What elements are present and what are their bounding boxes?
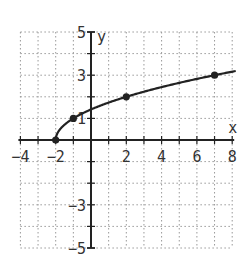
x-tick-label: 6 [192, 148, 201, 166]
function-plot: −4−22468 531−3−5 x y [0, 0, 246, 263]
y-axis-label: y [97, 28, 106, 46]
x-tick-label: 8 [228, 148, 237, 166]
y-tick-label: −3 [68, 197, 86, 215]
x-tick-label: −2 [47, 148, 65, 166]
data-point [211, 72, 218, 79]
data-point [123, 93, 130, 100]
data-point [70, 115, 77, 122]
y-tick-label: 5 [77, 24, 86, 42]
y-tick-label: 3 [77, 67, 86, 85]
x-tick-labels: −4−22468 [11, 148, 236, 166]
x-tick-label: 4 [157, 148, 166, 166]
x-tick-label: −4 [11, 148, 29, 166]
x-axis-label: x [228, 119, 237, 137]
y-tick-label: −5 [68, 240, 86, 258]
x-tick-label: 2 [122, 148, 131, 166]
data-point [52, 136, 59, 143]
